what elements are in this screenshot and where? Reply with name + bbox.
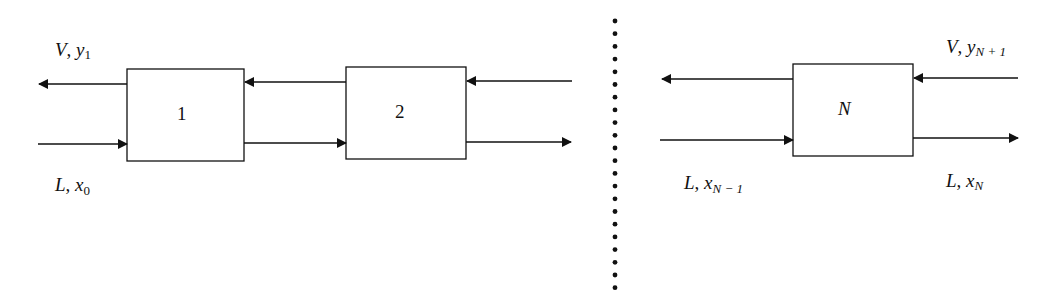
stage-2-box — [346, 67, 466, 159]
label-top-left: V, y1 — [55, 39, 91, 62]
stage-n-box — [793, 64, 913, 156]
label-top-right: V, yN + 1 — [946, 36, 1006, 59]
label-bottom-mid: L, xN − 1 — [683, 172, 743, 196]
stage-1-label: 1 — [177, 103, 187, 124]
countercurrent-stages-diagram: 1 2 N V, y1 L, x0 V, yN + 1 L, xN − 1 L — [0, 0, 1060, 299]
dotted-separator — [613, 19, 618, 291]
stage-2-label: 2 — [395, 101, 405, 122]
label-bottom-right: L, xN — [945, 170, 985, 193]
stage-n-label: N — [837, 98, 852, 119]
diagram-canvas: 1 2 N V, y1 L, x0 V, yN + 1 L, xN − 1 L — [0, 0, 1060, 299]
label-bottom-left: L, x0 — [54, 174, 90, 198]
